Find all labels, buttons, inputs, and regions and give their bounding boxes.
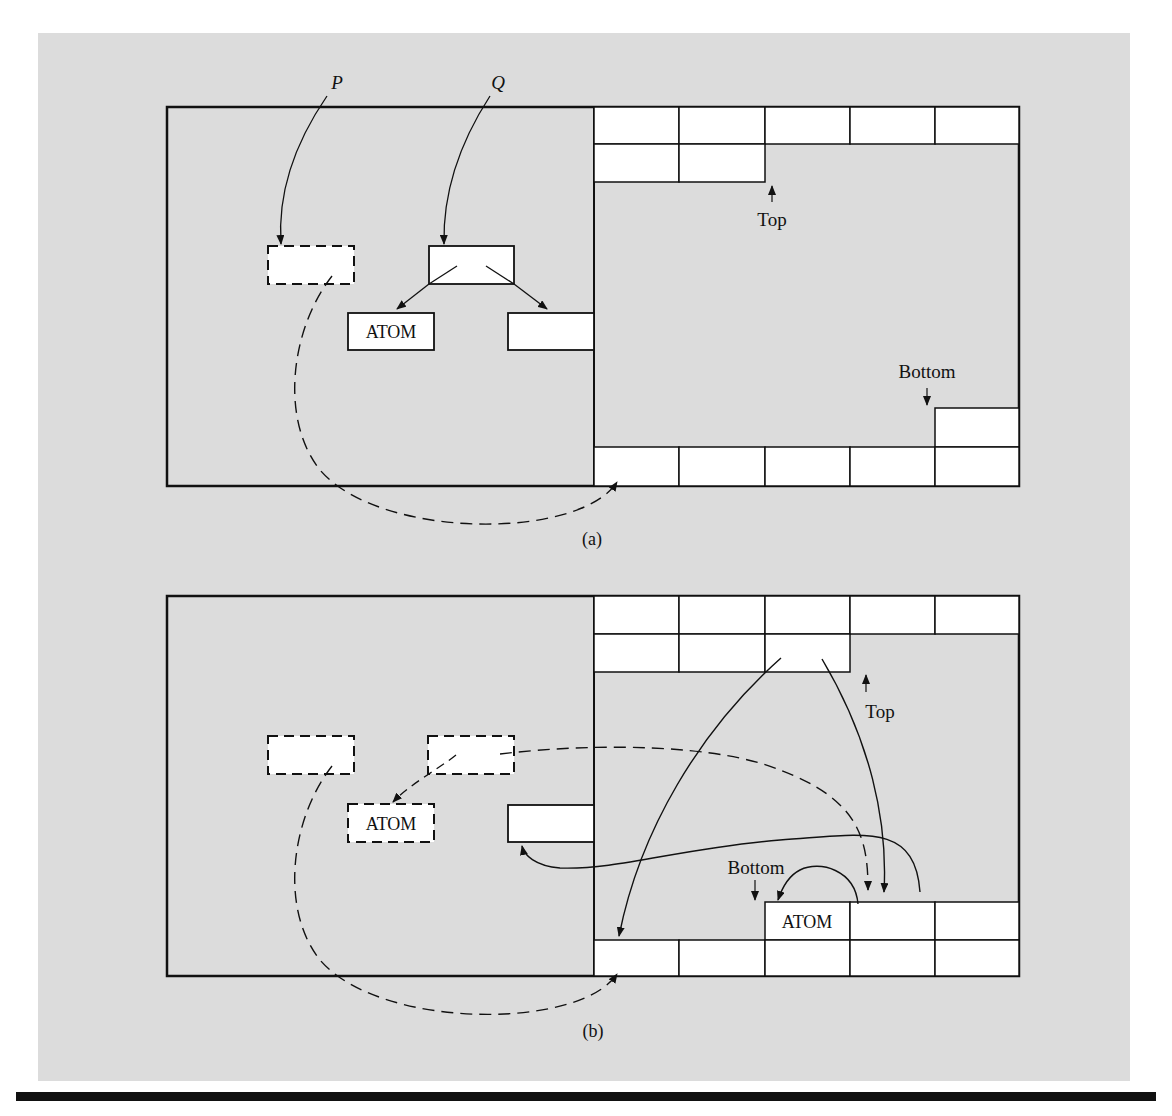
figure-diagram: Top Bottom P Q ATOM (a): [0, 0, 1172, 1116]
stack-top-cells-a: [594, 107, 1019, 182]
stack-top-cells-b: [594, 596, 1019, 672]
bottom-label-a: Bottom: [898, 361, 955, 382]
diagram-a: Top Bottom P Q ATOM (a): [167, 72, 1019, 550]
caption-a: (a): [582, 529, 602, 550]
right-child-node-b: [508, 805, 594, 842]
pointer-q-label: Q: [491, 72, 505, 93]
freed-node-p-a: [268, 246, 354, 284]
node-q-a: [429, 246, 514, 284]
right-child-node-a: [508, 313, 594, 350]
pointer-p-label: P: [330, 72, 343, 93]
bottom-label-b: Bottom: [727, 857, 784, 878]
freed-node-q-b: [428, 736, 514, 774]
top-label-a: Top: [757, 209, 786, 230]
diagram-b: ATOM Top Bottom ATOM (b): [167, 596, 1019, 1042]
atom-label-b: ATOM: [366, 814, 417, 834]
freed-node-p-b: [268, 736, 354, 774]
atom-label-a: ATOM: [366, 322, 417, 342]
top-label-b: Top: [865, 701, 894, 722]
stack-atom-label-b: ATOM: [782, 912, 833, 932]
bottom-rule: [16, 1092, 1156, 1101]
stack-bottom-cells-a: [594, 408, 1019, 486]
caption-b: (b): [583, 1021, 604, 1042]
